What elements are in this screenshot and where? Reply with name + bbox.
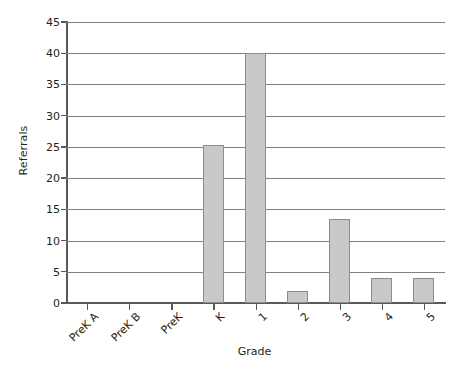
x-axis-title: Grade	[0, 345, 463, 358]
x-tick-label: PreK A	[67, 310, 101, 344]
x-tick-mark	[298, 303, 299, 310]
x-tick-mark	[382, 303, 383, 310]
bar	[203, 145, 224, 303]
y-tick-label: 45	[46, 16, 60, 29]
y-axis-title: Referrals	[17, 101, 30, 201]
y-tick-mark	[61, 209, 66, 210]
y-tick-label: 5	[53, 265, 60, 278]
y-tick-mark	[61, 177, 66, 178]
y-tick-mark	[61, 271, 66, 272]
bar	[245, 53, 266, 303]
x-tick-mark	[340, 303, 341, 310]
y-tick-label: 35	[46, 78, 60, 91]
gridline	[66, 22, 445, 23]
y-tick-label: 20	[46, 172, 60, 185]
x-tick-mark	[424, 303, 425, 310]
y-tick-label: 0	[53, 297, 60, 310]
x-tick-label: 2	[298, 310, 312, 324]
y-tick-mark	[61, 84, 66, 85]
y-tick-mark	[61, 146, 66, 147]
bar	[371, 278, 392, 303]
x-tick-mark	[256, 303, 257, 310]
y-tick-label: 40	[46, 47, 60, 60]
figure-caption-partial	[8, 366, 308, 374]
y-axis-tick-labels: 051015202530354045	[30, 22, 60, 303]
x-tick-mark	[129, 303, 130, 310]
bar	[329, 219, 350, 303]
x-tick-label: 5	[424, 310, 438, 324]
y-tick-mark	[61, 302, 66, 303]
bar-chart-figure: Referrals 051015202530354045 PreK APreK …	[0, 0, 463, 374]
y-tick-mark	[61, 115, 66, 116]
x-tick-label: 1	[256, 310, 270, 324]
y-tick-label: 30	[46, 109, 60, 122]
bar	[413, 278, 434, 303]
x-tick-label: 4	[382, 310, 396, 324]
y-axis-line	[66, 21, 68, 304]
y-tick-mark	[61, 21, 66, 22]
bar	[287, 291, 308, 303]
x-tick-label: 3	[340, 310, 354, 324]
x-tick-mark	[171, 303, 172, 310]
x-tick-label: PreK B	[109, 310, 143, 344]
y-tick-mark	[61, 240, 66, 241]
x-tick-mark	[213, 303, 214, 310]
x-tick-mark	[87, 303, 88, 310]
plot-area	[66, 22, 445, 303]
y-tick-mark	[61, 53, 66, 54]
y-tick-label: 10	[46, 234, 60, 247]
y-tick-label: 15	[46, 203, 60, 216]
y-tick-label: 25	[46, 140, 60, 153]
x-tick-label: PreK	[159, 310, 186, 337]
x-tick-label: K	[213, 310, 227, 324]
